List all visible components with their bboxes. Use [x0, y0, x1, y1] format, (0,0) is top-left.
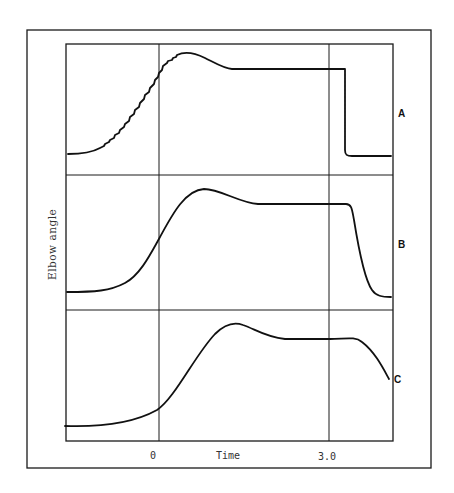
panel-label-a: A — [398, 108, 405, 119]
y-axis-label: Elbow angle — [46, 209, 58, 280]
x-tick-0: 0 — [150, 450, 156, 461]
figure-frame — [27, 30, 431, 468]
curve-a — [68, 53, 391, 156]
curve-b — [67, 189, 391, 297]
elbow-angle-chart: A B C Elbow angle 0 Time 3.0 — [0, 0, 454, 493]
x-tick-3: 3.0 — [318, 451, 336, 462]
x-axis-label: Time — [216, 450, 240, 461]
curve-c — [65, 324, 389, 426]
plot-area — [66, 44, 393, 441]
panel-label-b: B — [398, 239, 405, 250]
panel-label-c: C — [394, 374, 401, 385]
